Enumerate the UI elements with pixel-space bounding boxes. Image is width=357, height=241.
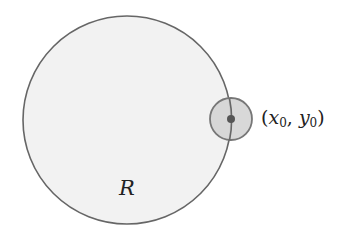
region-label: R <box>119 176 135 200</box>
point-label: (x0, y0) <box>261 106 325 130</box>
point-marker <box>227 115 235 123</box>
